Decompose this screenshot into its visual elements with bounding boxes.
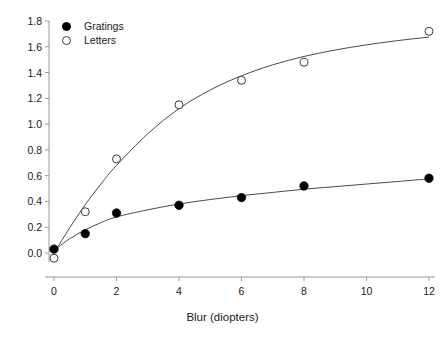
data-point-letters <box>175 101 183 109</box>
y-tick-label: 1.8 <box>4 16 42 27</box>
data-point-gratings <box>425 174 433 182</box>
data-point-letters <box>113 155 121 163</box>
legend-label-letters: Letters <box>84 35 116 46</box>
x-tick-label: 8 <box>289 286 319 297</box>
data-point-gratings <box>237 193 245 201</box>
data-point-gratings <box>81 229 89 237</box>
data-point-gratings <box>112 209 120 217</box>
y-tick-label: 0.0 <box>4 248 42 259</box>
data-point-letters <box>81 208 89 216</box>
legend-marker-letters <box>62 36 71 45</box>
y-tick-label: 0.8 <box>4 145 42 156</box>
chart-container: 0.00.20.40.60.81.01.21.41.61.8 024681012… <box>0 0 445 338</box>
x-axis-title: Blur (diopters) <box>0 312 445 324</box>
y-tick-label: 1.6 <box>4 42 42 53</box>
y-tick-label: 1.4 <box>4 68 42 79</box>
data-point-gratings <box>175 201 183 209</box>
x-tick-label: 0 <box>39 286 69 297</box>
data-point-gratings <box>50 245 58 253</box>
legend-label-gratings: Gratings <box>84 21 124 32</box>
data-point-letters <box>300 58 308 66</box>
fit-curve-gratings <box>54 179 429 251</box>
data-point-gratings <box>300 182 308 190</box>
y-tick-label: 1.2 <box>4 93 42 104</box>
x-tick-label: 10 <box>352 286 382 297</box>
fit-curve-letters <box>54 37 429 253</box>
data-point-letters <box>238 76 246 84</box>
y-tick-label: 0.2 <box>4 222 42 233</box>
x-tick-label: 6 <box>227 286 257 297</box>
data-point-letters <box>50 254 58 262</box>
y-tick-label: 1.0 <box>4 119 42 130</box>
legend-marker-gratings <box>62 22 71 31</box>
y-tick-label: 0.4 <box>4 196 42 207</box>
data-point-letters <box>425 27 433 35</box>
x-tick-label: 12 <box>414 286 444 297</box>
x-tick-label: 2 <box>102 286 132 297</box>
y-tick-label: 0.6 <box>4 171 42 182</box>
x-tick-label: 4 <box>164 286 194 297</box>
